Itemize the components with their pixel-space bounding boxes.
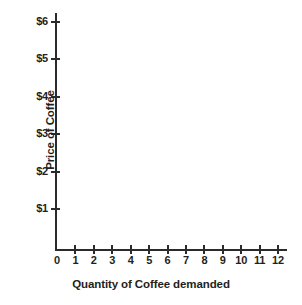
y-tick-label: $2 xyxy=(0,166,48,177)
y-axis-title: Price of Coffee xyxy=(44,90,57,170)
y-tick-mark xyxy=(51,58,60,60)
y-tick-label: $3 xyxy=(0,128,48,139)
plot-area xyxy=(57,13,287,249)
x-tick-mark xyxy=(203,245,205,254)
x-tick-mark xyxy=(222,245,224,254)
y-tick-label: $6 xyxy=(0,16,48,27)
x-tick-mark xyxy=(93,245,95,254)
y-tick-label: $5 xyxy=(0,53,48,64)
x-tick-mark xyxy=(111,245,113,254)
x-tick-mark xyxy=(74,245,76,254)
x-tick-mark xyxy=(167,245,169,254)
x-tick-mark xyxy=(259,245,261,254)
x-tick-mark xyxy=(240,245,242,254)
y-tick-mark xyxy=(51,21,60,23)
y-tick-label: $4 xyxy=(0,91,48,102)
x-tick-mark xyxy=(277,245,279,254)
x-axis-title: Quantity of Coffee demanded xyxy=(0,278,302,291)
x-tick-mark xyxy=(185,245,187,254)
x-tick-mark xyxy=(130,245,132,254)
coffee-demand-chart: $1$2$3$4$5$6 0123456789101112 Price of C… xyxy=(0,0,302,305)
y-tick-mark xyxy=(51,171,60,173)
x-tick-mark xyxy=(148,245,150,254)
x-tick-label: 12 xyxy=(267,255,289,266)
x-axis-line xyxy=(55,249,287,251)
y-tick-label: $1 xyxy=(0,203,48,214)
y-tick-mark xyxy=(51,208,60,210)
